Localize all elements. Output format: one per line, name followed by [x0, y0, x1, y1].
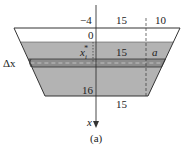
- label-axis-x: x: [87, 117, 92, 128]
- water-region: [21, 42, 174, 96]
- label-bottom-16: 16: [82, 85, 93, 96]
- label-xi-star: xi*: [80, 45, 88, 61]
- label-top-15: 15: [116, 15, 127, 26]
- label-top-10: 10: [155, 15, 166, 26]
- label-minus-4: −4: [80, 15, 92, 26]
- label-mid-15: 15: [116, 47, 127, 58]
- label-delta-x: Δx: [3, 58, 16, 69]
- label-a: a: [152, 47, 158, 58]
- figure-caption: (a): [90, 133, 102, 144]
- label-bottom-15: 15: [116, 99, 127, 110]
- label-surface-0: 0: [88, 30, 94, 41]
- arrow-down-icon: [93, 121, 99, 128]
